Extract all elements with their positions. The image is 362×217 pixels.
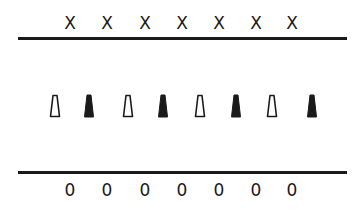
zero-marker: 0 xyxy=(140,182,151,199)
x-marker: X xyxy=(286,15,298,32)
zero-marker: 0 xyxy=(65,182,76,199)
x-marker: X xyxy=(139,15,151,32)
zero-marker: 0 xyxy=(177,182,188,199)
outline-pin-icon xyxy=(266,94,278,118)
zero-marker: 0 xyxy=(214,182,225,199)
outline-pin-icon xyxy=(122,94,134,118)
x-marker: X xyxy=(250,15,262,32)
solid-pin-icon xyxy=(230,94,242,118)
top-divider-line xyxy=(18,37,347,40)
outline-pin-icon xyxy=(194,94,206,118)
outline-pin-icon xyxy=(49,94,61,118)
x-marker: X xyxy=(176,15,188,32)
solid-pin-icon xyxy=(157,94,169,118)
solid-pin-icon xyxy=(83,94,95,118)
x-marker: X xyxy=(64,15,76,32)
solid-pin-icon xyxy=(306,94,318,118)
bottom-divider-line xyxy=(18,171,347,174)
x-marker: X xyxy=(213,15,225,32)
x-marker: X xyxy=(101,15,113,32)
zero-marker: 0 xyxy=(102,182,113,199)
zero-marker: 0 xyxy=(287,182,298,199)
zero-marker: 0 xyxy=(251,182,262,199)
